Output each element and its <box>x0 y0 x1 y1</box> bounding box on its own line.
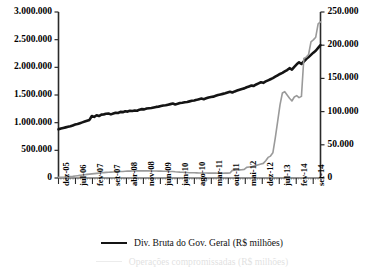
x-axis-tick-label: jan-10 <box>181 163 190 186</box>
x-axis-tick-label: out-11 <box>232 163 241 186</box>
series-line-secondary <box>59 22 321 177</box>
x-axis-tick-label: set-14 <box>317 165 326 186</box>
x-axis-tick-label: jul-13 <box>283 165 292 186</box>
right-axis-tick-label: 150.000 <box>328 73 359 83</box>
x-axis-tick-label: mar-11 <box>215 160 224 186</box>
chart-legend: Div. Bruta do Gov. Geral (R$ milhões) Op… <box>0 236 384 266</box>
series-line-primary <box>59 45 321 129</box>
left-axis-tick-label: 0 <box>0 173 52 183</box>
legend-line-marker-primary <box>101 242 127 244</box>
x-axis-tick-label: dez-12 <box>266 162 275 186</box>
left-axis-tick-label: 2.000.000 <box>0 62 52 72</box>
x-axis-tick-label: set-07 <box>113 165 122 186</box>
right-axis-tick-label: 0 <box>328 173 333 183</box>
chart-axes <box>55 12 325 184</box>
left-axis-tick-label: 1.500.000 <box>0 90 52 100</box>
right-axis-tick-label: 250.000 <box>328 7 359 17</box>
x-axis-tick-label: mai-12 <box>249 161 258 186</box>
legend-label-secondary: Operações compromissadas (R$ milhões) <box>129 257 289 267</box>
right-axis-tick-label: 50.000 <box>328 140 354 150</box>
x-axis-tick-label: jun-09 <box>164 162 173 186</box>
right-axis-tick-label: 100.000 <box>328 107 359 117</box>
x-axis-tick-label: fev-14 <box>300 164 309 186</box>
legend-label-primary: Div. Bruta do Gov. Geral (R$ milhões) <box>134 238 283 248</box>
legend-entry-secondary: Operações compromissadas (R$ milhões) <box>0 257 384 267</box>
left-axis-tick-label: 1.000.000 <box>0 118 52 128</box>
legend-entry-primary: Div. Bruta do Gov. Geral (R$ milhões) <box>0 238 384 248</box>
x-axis-tick-label: dez-05 <box>62 162 71 186</box>
x-axis-tick-label: jul-06 <box>79 165 88 186</box>
left-axis-tick-label: 3.000.000 <box>0 7 52 17</box>
x-axis-tick-label: abr-08 <box>130 162 139 186</box>
legend-line-marker-secondary <box>96 261 122 262</box>
left-axis-tick-label: 500.000 <box>0 145 52 155</box>
x-axis-tick-label: ago-10 <box>198 162 207 186</box>
x-axis-tick-label: nov-08 <box>147 161 156 186</box>
x-axis-tick-label: fev-07 <box>96 164 105 186</box>
chart-series-lines <box>59 22 321 177</box>
right-axis-tick-label: 200.000 <box>328 40 359 50</box>
left-axis-tick-label: 2.500.000 <box>0 35 52 45</box>
